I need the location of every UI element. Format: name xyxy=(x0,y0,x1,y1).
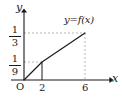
function-curve xyxy=(24,33,85,80)
curve-label: y=f(x) xyxy=(64,15,94,25)
y-tick-one-ninth-numerator: 1 xyxy=(9,54,21,65)
x-tick-label-6: 6 xyxy=(82,83,88,93)
x-axis-label: x xyxy=(112,73,118,84)
origin-label: O xyxy=(16,82,24,92)
y-tick-one-ninth-denominator: 9 xyxy=(9,67,21,78)
y-axis-label: y xyxy=(16,2,22,13)
y-tick-label-one-ninth: 1 9 xyxy=(9,54,21,77)
y-tick-label-one-third: 1 3 xyxy=(9,25,21,48)
function-graph-figure: y x O 1 3 1 9 2 6 y=f(x) xyxy=(0,0,122,112)
y-tick-one-third-denominator: 3 xyxy=(9,38,21,49)
x-tick-label-2: 2 xyxy=(39,83,45,93)
y-tick-one-third-numerator: 1 xyxy=(9,25,21,36)
